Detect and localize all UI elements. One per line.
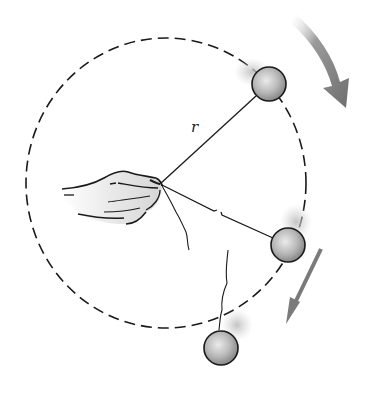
circular-motion-diagram: r xyxy=(0,0,382,396)
broken-string-hand-end xyxy=(162,186,189,250)
string-to-right-ball xyxy=(160,184,273,238)
rotation-arrow-icon xyxy=(292,14,349,108)
ball-released xyxy=(204,331,238,365)
ball-right xyxy=(271,228,305,262)
string-to-top-ball xyxy=(160,96,256,184)
ball-top xyxy=(252,67,286,101)
hand-icon xyxy=(62,171,162,224)
radius-label: r xyxy=(191,118,199,136)
